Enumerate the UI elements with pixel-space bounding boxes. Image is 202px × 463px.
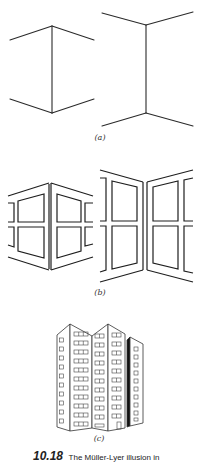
panel-c-label: (c) bbox=[79, 434, 119, 443]
caption-text: The Müller-Lyer illusion in bbox=[69, 453, 160, 462]
panel-c-building bbox=[0, 0, 202, 440]
figure-number: 10.18 bbox=[33, 449, 63, 463]
figure-caption: 10.18 The Müller-Lyer illusion in bbox=[33, 449, 159, 463]
